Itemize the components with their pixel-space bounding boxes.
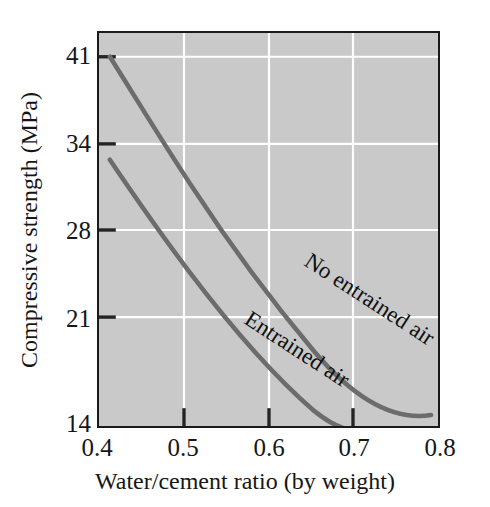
y-tick-label-41: 41 xyxy=(51,43,91,68)
y-axis-ticks xyxy=(99,57,116,317)
chart-figure: No entrained air Entrained air 41 34 28 … xyxy=(0,0,490,507)
plot-area: No entrained air Entrained air xyxy=(97,31,440,428)
series-entrained-air xyxy=(110,160,358,426)
x-tick-label-0-4: 0.4 xyxy=(62,433,132,463)
y-axis-tick-labels: 41 34 28 21 14 xyxy=(46,0,91,507)
y-tick-label-28: 28 xyxy=(51,218,91,243)
x-tick-label-0-5: 0.5 xyxy=(148,433,218,463)
x-tick-label-0-8: 0.8 xyxy=(405,433,475,463)
x-axis-ticks xyxy=(184,408,353,426)
y-axis-title: Compressive strength (MPa) xyxy=(15,30,43,430)
y-tick-label-21: 21 xyxy=(51,306,91,331)
plot-canvas xyxy=(99,33,438,426)
y-tick-label-34: 34 xyxy=(51,131,91,156)
x-tick-label-0-7: 0.7 xyxy=(319,433,389,463)
series-no-entrained-air xyxy=(110,57,431,416)
x-tick-label-0-6: 0.6 xyxy=(234,433,304,463)
x-axis-title: Water/cement ratio (by weight) xyxy=(0,466,490,496)
x-axis-tick-labels: 0.4 0.5 0.6 0.7 0.8 xyxy=(0,433,490,467)
